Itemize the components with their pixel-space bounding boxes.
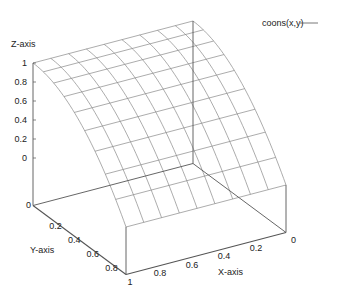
- mesh-line-y: [64, 55, 224, 97]
- mesh-line-y: [54, 41, 214, 83]
- mesh-line-y: [43, 30, 203, 72]
- tick-label: 0.6: [186, 260, 199, 270]
- axis-line: [193, 164, 286, 233]
- tick-label: 1: [127, 277, 132, 287]
- tick-label: 0.6: [14, 96, 27, 106]
- mesh-line-y: [116, 157, 276, 199]
- mesh-line-y: [105, 132, 265, 174]
- axis-line: [126, 233, 286, 275]
- tick-label: 0: [26, 200, 31, 210]
- tick-label: 0.8: [105, 263, 118, 273]
- tick-labels: 00.20.40.60.810.20.40.60.8000.20.40.60.8…: [14, 58, 296, 287]
- x-axis-label: X-axis: [218, 267, 244, 277]
- mesh-line-y: [74, 70, 234, 112]
- tick-label: 0.8: [14, 77, 27, 87]
- mesh-line-x: [193, 21, 286, 185]
- tick-label: 0.6: [87, 249, 100, 259]
- y-axis-label: Y-axis: [30, 245, 55, 255]
- mesh-line-y: [126, 185, 286, 227]
- legend: coons(x,y): [262, 18, 318, 28]
- tick-label: 0.2: [250, 243, 263, 253]
- legend-label: coons(x,y): [262, 18, 304, 28]
- z-axis-label: Z-axis: [11, 39, 36, 49]
- mesh-line-y: [85, 89, 245, 131]
- surface-mesh: [33, 21, 286, 227]
- tick-label: 0.2: [14, 134, 27, 144]
- tick-label: 0.4: [14, 115, 27, 125]
- surface-plot: 00.20.40.60.810.20.40.60.8000.20.40.60.8…: [0, 0, 337, 299]
- tick-label: 0: [291, 235, 296, 245]
- tick-label: 0.2: [49, 221, 62, 231]
- tick-label: 0.4: [68, 235, 81, 245]
- mesh-line-y: [33, 21, 193, 63]
- tick-label: 0.4: [218, 251, 231, 261]
- tick-label: 0: [22, 153, 27, 163]
- tick-label: 0.8: [154, 268, 167, 278]
- tick-label: 1: [22, 58, 27, 68]
